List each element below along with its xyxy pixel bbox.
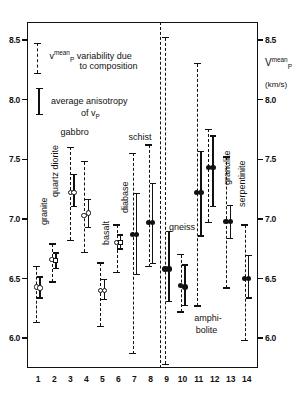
legend-vp-superscript: mean (54, 49, 70, 56)
y-tick-mark-right (257, 337, 263, 338)
variability-cap-top (49, 243, 56, 244)
legend-anisotropy-symbol: vP (91, 108, 100, 118)
y-tick-mark-right (257, 159, 263, 160)
group-divider-cap-bottom (157, 367, 164, 368)
data-point-marker (210, 165, 215, 170)
anisotropy-cap-top (210, 135, 216, 136)
rock-type-label: bolite (196, 325, 218, 335)
y-tick-mark-left (22, 39, 28, 40)
anisotropy-cap-bottom (198, 235, 204, 236)
variability-cap-bottom (49, 281, 56, 282)
variability-cap-top (241, 224, 248, 225)
data-point-marker (228, 219, 233, 224)
variability-cap-bottom (81, 252, 88, 253)
variability-cap-bottom (162, 364, 169, 365)
anisotropy-cap-top (101, 279, 107, 280)
y-tick-label-right: 8.0 (265, 95, 292, 105)
variability-cap-bottom (97, 326, 104, 327)
legend-variability-line (37, 43, 38, 73)
legend-variability-cap-top (34, 43, 41, 44)
variability-cap-bottom (205, 222, 212, 223)
variability-line (36, 267, 37, 323)
variability-line (197, 64, 198, 306)
legend-anisotropy-cap-bottom (36, 114, 43, 115)
variability-cap-bottom (129, 353, 136, 354)
anisotropy-cap-top (150, 183, 156, 184)
y-tick-mark-right (257, 218, 263, 219)
y-tick-label-right: 8.5 (265, 35, 292, 45)
anisotropy-cap-bottom (117, 248, 123, 249)
rock-type-label: granulite (222, 151, 232, 186)
variability-line (84, 162, 85, 253)
data-point-marker (102, 288, 107, 293)
variability-line (165, 38, 166, 365)
legend-variability-cap-bottom (34, 73, 41, 74)
variability-cap-top (33, 266, 40, 267)
rock-type-label: amphi- (194, 313, 222, 323)
anisotropy-cap-top (182, 264, 188, 265)
y-tick-label-left: 6.5 (0, 274, 20, 284)
anisotropy-cap-bottom (53, 268, 59, 269)
variability-cap-top (113, 224, 120, 225)
anisotropy-cap-bottom (246, 297, 252, 298)
y-tick-mark-right (257, 278, 263, 279)
anisotropy-cap-bottom (134, 274, 140, 275)
variability-cap-top (97, 262, 104, 263)
variability-line (208, 129, 209, 222)
variability-cap-top (194, 63, 201, 64)
anisotropy-cap-top (85, 199, 91, 200)
variability-cap-top (129, 153, 136, 154)
rock-type-label: schist (128, 132, 151, 142)
anisotropy-cap-bottom (85, 227, 91, 228)
y-tick-label-left: 8.0 (0, 95, 20, 105)
data-point-marker (182, 284, 187, 289)
anisotropy-cap-bottom (210, 206, 216, 207)
rock-type-label: gabbro (61, 127, 89, 137)
group-divider-line (160, 22, 161, 368)
variability-cap-top (145, 144, 152, 145)
variability-cap-bottom (145, 266, 152, 267)
variability-cap-top (67, 147, 74, 148)
anisotropy-cap-bottom (37, 297, 43, 298)
data-point-marker (118, 240, 123, 245)
variability-cap-bottom (33, 322, 40, 323)
anisotropy-cap-bottom (227, 238, 233, 239)
data-point-marker (86, 210, 91, 215)
y-axis-v: VmeanP (265, 57, 292, 68)
data-point-marker (53, 258, 58, 263)
legend-anisotropy-cap-top (36, 88, 43, 89)
y-tick-label-right: 7.5 (265, 154, 292, 164)
y-tick-mark-left (22, 337, 28, 338)
anisotropy-cap-bottom (182, 305, 188, 306)
anisotropy-cap-top (198, 151, 204, 152)
legend-anisotropy-text-line2: of vP (81, 107, 100, 123)
y-tick-mark-left (22, 218, 28, 219)
data-point-marker (71, 190, 76, 195)
anisotropy-cap-top (134, 193, 140, 194)
anisotropy-cap-top (53, 252, 59, 253)
y-tick-label-left: 7.5 (0, 154, 20, 164)
legend-anisotropy-symbol-sub: P (96, 113, 100, 120)
variability-cap-bottom (194, 305, 201, 306)
anisotropy-cap-bottom (150, 263, 156, 264)
legend-variability-text-line2: to composition (79, 60, 137, 72)
plot-frame (27, 22, 258, 368)
variability-cap-bottom (113, 272, 120, 273)
variability-cap-bottom (67, 240, 74, 241)
variability-line (100, 263, 101, 326)
y-tick-mark-right (257, 39, 263, 40)
anisotropy-cap-top (246, 255, 252, 256)
anisotropy-bar (212, 135, 213, 207)
anisotropy-cap-top (117, 234, 123, 235)
rock-type-label: quartz diorite (50, 145, 60, 197)
y-axis-label-symbol: VmeanP (265, 55, 292, 69)
variability-cap-bottom (177, 311, 184, 312)
y-tick-mark-left (22, 159, 28, 160)
y-axis-superscript: mean (272, 55, 288, 62)
rock-type-label: gneiss (169, 222, 195, 232)
legend-anisotropy-bar (38, 88, 40, 115)
legend-vp-subscript: P (70, 56, 74, 63)
x-tick-label: 14 (238, 374, 256, 384)
legend-vp-symbol: vmeanP (49, 51, 74, 61)
variability-cap-bottom (223, 287, 230, 288)
